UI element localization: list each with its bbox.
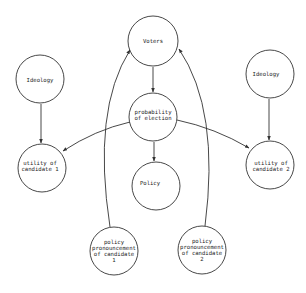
diagram-canvas: Voters Ideology Ideology probability of … — [0, 0, 306, 293]
node-pronouncement-2-label: policy pronouncement of candidate 2 — [180, 238, 224, 262]
node-voters-label: Voters — [143, 38, 163, 44]
edge-probability-to-utility-2 — [177, 120, 249, 148]
node-policy-label: Policy — [140, 180, 160, 186]
node-policy-circle — [132, 162, 180, 210]
node-utility-1-label: utility of candidate 1 — [21, 160, 58, 172]
edge-pronouncement-2-to-voters — [179, 49, 209, 226]
node-probability-label: probability of election — [134, 109, 171, 121]
edge-probability-to-utility-1 — [63, 122, 130, 151]
edge-pronouncement-1-to-voters — [104, 50, 130, 227]
node-ideology-1-label: Ideology — [27, 77, 54, 83]
node-utility-2-label: utility of candidate 2 — [252, 160, 289, 172]
node-ideology-2-label: Ideology — [253, 71, 280, 77]
node-pronouncement-1-label: policy pronouncement of candidate 1 — [92, 239, 136, 263]
